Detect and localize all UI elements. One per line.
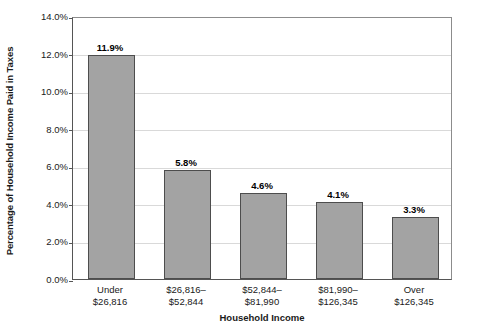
y-axis-tick-mark — [69, 130, 73, 131]
bar-value-label: 3.3% — [374, 204, 454, 215]
y-axis-tick-mark — [69, 281, 73, 282]
y-axis-title: Percentage of Household Income Paid in T… — [3, 6, 17, 296]
y-axis-tick-labels: 0.0%2.0%4.0%6.0%8.0%10.0%12.0%14.0% — [22, 0, 68, 335]
bar-value-label: 4.1% — [298, 189, 378, 200]
bar — [164, 170, 211, 279]
bar-value-label: 4.6% — [222, 180, 302, 191]
y-axis-tick-mark — [69, 205, 73, 206]
y-axis-tick-mark — [69, 243, 73, 244]
y-axis-tick-label: 12.0% — [24, 50, 68, 60]
bar — [316, 202, 363, 279]
y-axis-tick-mark — [69, 168, 73, 169]
y-axis-tick-label: 8.0% — [24, 125, 68, 135]
bar-value-label: 11.9% — [70, 42, 150, 53]
y-axis-tick-label: 6.0% — [24, 162, 68, 172]
plot-area — [72, 17, 452, 280]
bar-value-label: 5.8% — [146, 157, 226, 168]
x-axis-tick-label: Over$126,345 — [369, 284, 459, 308]
x-axis-title: Household Income — [72, 312, 452, 323]
x-axis-tick-label-line: Over — [369, 284, 459, 296]
y-axis-tick-label: 2.0% — [24, 237, 68, 247]
y-axis-tick-mark — [69, 18, 73, 19]
y-axis-tick-mark — [69, 55, 73, 56]
bar — [88, 55, 135, 279]
y-axis-tick-label: 4.0% — [24, 200, 68, 210]
y-axis-tick-label: 10.0% — [24, 87, 68, 97]
y-axis-tick-label: 0.0% — [24, 275, 68, 285]
bar-chart-figure: Percentage of Household Income Paid in T… — [0, 0, 483, 335]
bar — [240, 193, 287, 279]
x-axis-tick-label-line: $126,345 — [369, 296, 459, 308]
y-axis-tick-label: 14.0% — [24, 12, 68, 22]
bar — [392, 217, 439, 279]
y-axis-tick-mark — [69, 93, 73, 94]
